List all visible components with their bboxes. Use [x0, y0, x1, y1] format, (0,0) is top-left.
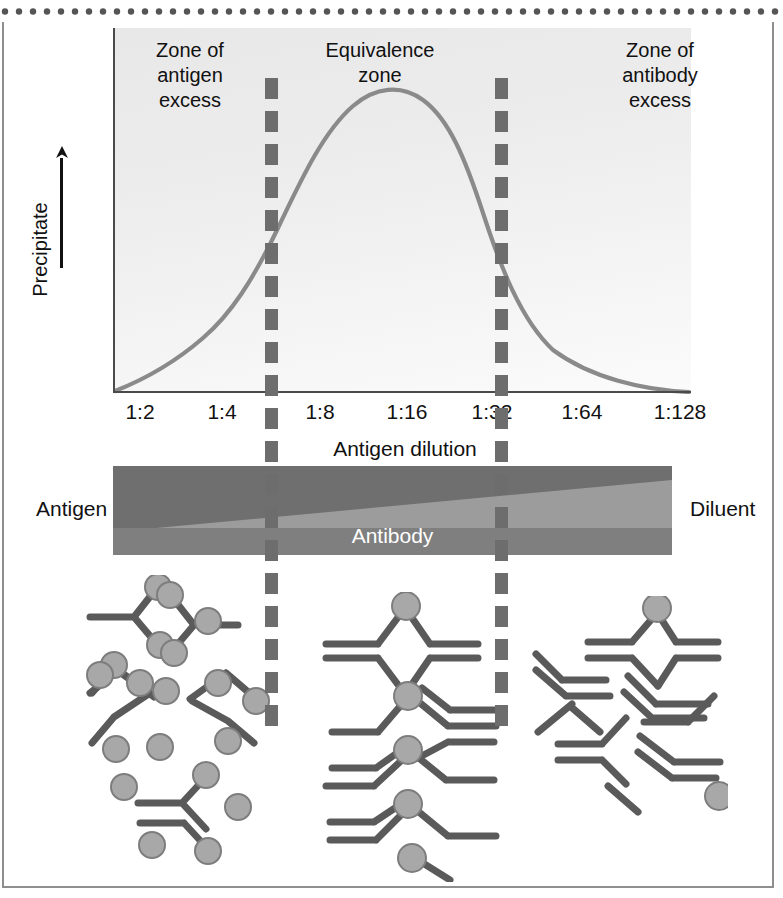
- molecule-panel-antigen-excess: [78, 575, 273, 865]
- y-axis-line: [113, 28, 115, 392]
- bar-label-diluent: Diluent: [690, 497, 755, 521]
- zone-label-antigen-excess: Zone of antigen excess: [120, 38, 260, 113]
- x-tick-1: 1:2: [100, 400, 180, 424]
- x-tick-2: 1:4: [182, 400, 262, 424]
- boundary-dash-line-left: [265, 78, 278, 730]
- boundary-dash-line-right: [495, 78, 508, 730]
- x-tick-5: 1:32: [452, 400, 532, 424]
- molecule-panel-antibody-excess: [528, 596, 728, 816]
- zone-label-equivalence: Equivalence zone: [290, 38, 470, 88]
- y-axis-shaft: [60, 158, 63, 268]
- y-axis-title: Precipitate: [29, 150, 52, 350]
- bar-label-antibody: Antibody: [113, 524, 672, 548]
- molecule-panel-equivalence: [318, 592, 508, 882]
- frame-left-edge: [2, 22, 4, 888]
- x-axis-title: Antigen dilution: [285, 437, 525, 461]
- frame-right-edge: [772, 22, 774, 888]
- x-tick-3: 1:8: [280, 400, 360, 424]
- bar-label-antigen: Antigen: [36, 497, 107, 521]
- precipitin-curve-figure: Precipitate Zone of antigen excess Equiv…: [0, 0, 783, 898]
- x-tick-6: 1:64: [542, 400, 622, 424]
- x-axis-line: [113, 391, 691, 393]
- x-tick-4: 1:16: [367, 400, 447, 424]
- frame-bottom-edge: [2, 886, 774, 888]
- zone-label-antibody-excess: Zone of antibody excess: [590, 38, 730, 113]
- dotted-border-top: [0, 8, 783, 15]
- x-tick-7: 1:128: [640, 400, 720, 424]
